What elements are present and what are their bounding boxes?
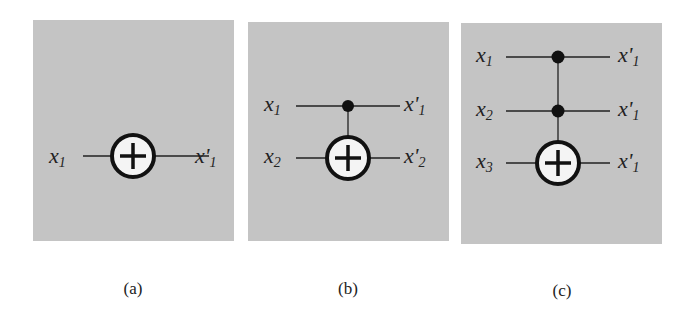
panel-c-toffoli-gate: x1 x2 x3 x'1 x'1 x'1 — [461, 23, 662, 244]
input-label-x1: x1 — [48, 143, 66, 170]
output-label-x1-prime: x'1 — [403, 91, 425, 118]
control-dot-icon-2 — [552, 105, 565, 118]
output-label-2: x'1 — [617, 96, 639, 123]
panel-b-cnot-gate: x1 x2 x'1 x'2 — [248, 22, 449, 241]
xor-target-icon — [537, 142, 579, 184]
caption-c: (c) — [532, 281, 592, 301]
panel-a-not-gate: x1 x'1 — [33, 20, 234, 241]
output-label-x2-prime: x'2 — [403, 143, 425, 170]
xor-target-icon — [327, 137, 369, 179]
toffoli-gate-diagram: x1 x2 x3 x'1 x'1 x'1 — [461, 23, 662, 244]
input-label-x1: x1 — [263, 91, 281, 118]
cnot-gate-diagram: x1 x2 x'1 x'2 — [248, 22, 449, 241]
input-label-x1: x1 — [475, 42, 493, 69]
output-label-x1-prime: x'1 — [194, 143, 216, 170]
input-label-x3: x3 — [475, 148, 493, 175]
output-label-1: x'1 — [617, 42, 639, 69]
input-label-x2: x2 — [263, 143, 281, 170]
caption-a: (a) — [103, 279, 163, 299]
caption-b: (b) — [318, 279, 378, 299]
xor-target-icon — [112, 135, 154, 177]
control-dot-icon — [342, 100, 354, 112]
control-dot-icon-1 — [552, 51, 565, 64]
input-label-x2: x2 — [475, 96, 493, 123]
output-label-3: x'1 — [617, 148, 639, 175]
not-gate-diagram: x1 x'1 — [33, 20, 234, 241]
